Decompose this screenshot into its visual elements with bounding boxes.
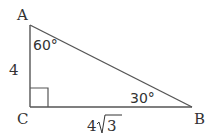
right-angle-marker-icon <box>30 88 48 107</box>
angle-label-a: 60° <box>33 37 58 53</box>
side-label-cb: 4 3 <box>87 115 122 135</box>
side-label-cb-radicand: 3 <box>107 117 117 135</box>
angle-label-b: 30° <box>130 90 155 106</box>
vertex-label-a: A <box>16 6 28 24</box>
vertex-label-c: C <box>17 110 28 128</box>
vertex-label-b: B <box>194 110 205 128</box>
triangle-diagram: A C B 60° 30° 4 4 3 <box>0 0 223 138</box>
side-label-cb-coefficient: 4 <box>87 117 97 135</box>
side-label-ac: 4 <box>9 61 19 79</box>
